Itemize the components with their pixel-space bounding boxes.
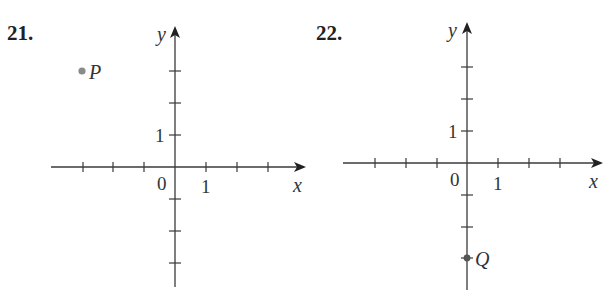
origin-label: 0: [157, 173, 167, 194]
x-unit-label: 1: [201, 176, 211, 197]
x-unit-label: 1: [493, 173, 503, 194]
y-unit-label: 1: [448, 121, 458, 142]
problem-22: 22. y x 0 1 1 Q: [316, 19, 601, 290]
problem-number: 21.: [7, 21, 33, 45]
problem-21: 21. y x 0 1 1 P: [7, 21, 304, 287]
y-axis-label: y: [155, 23, 166, 46]
y-unit-label: 1: [155, 125, 165, 146]
point-q-label: Q: [475, 248, 490, 270]
problem-number: 22.: [316, 21, 342, 45]
point-p-label: P: [88, 61, 101, 83]
point-p-marker: [78, 67, 85, 74]
x-axis-label: x: [292, 174, 302, 196]
origin-label: 0: [450, 169, 460, 190]
y-axis-label: y: [446, 19, 457, 42]
point-q-marker: [464, 255, 471, 262]
x-axis-label: x: [588, 170, 598, 192]
